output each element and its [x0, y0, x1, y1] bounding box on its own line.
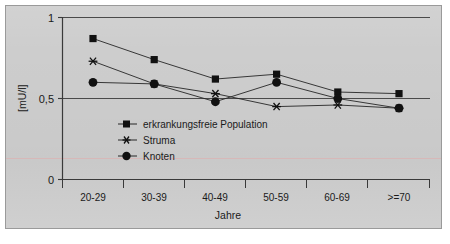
circle-marker-icon — [395, 104, 404, 113]
series-knoten — [89, 78, 404, 113]
y-axis-ticks — [58, 18, 62, 180]
legend-label-2: Knoten — [143, 151, 175, 162]
square-marker-icon — [151, 56, 158, 63]
y-axis-title: [mU/l] — [16, 85, 28, 112]
circle-marker-icon — [211, 97, 220, 106]
gridlines — [62, 18, 430, 99]
y-tick-label-mid: 0,5 — [39, 93, 54, 105]
legend-label-0: erkrankungsfreie Population — [143, 119, 268, 130]
square-marker-icon — [395, 90, 402, 97]
asterisk-marker-icon — [89, 58, 98, 65]
legend-item-2[interactable]: Knoten — [118, 151, 175, 162]
asterisk-marker-icon — [272, 103, 281, 110]
x-category-label-2: 40-49 — [202, 192, 228, 203]
square-marker-icon — [123, 121, 130, 128]
series-layer — [89, 35, 404, 113]
legend-item-1[interactable]: Struma — [118, 135, 176, 146]
legend-label-1: Struma — [143, 135, 176, 146]
x-axis-ticks — [63, 179, 430, 188]
asterisk-marker-icon — [211, 90, 220, 97]
asterisk-marker-icon — [123, 137, 131, 144]
x-axis-title: Jahre — [215, 209, 241, 221]
circle-marker-icon — [122, 152, 130, 160]
circle-marker-icon — [272, 78, 281, 87]
circle-marker-icon — [89, 78, 98, 87]
series-struma — [89, 58, 404, 112]
legend-item-0[interactable]: erkrankungsfreie Population — [118, 119, 268, 130]
x-category-label-0: 20-29 — [80, 192, 106, 203]
circle-marker-icon — [333, 94, 342, 103]
square-marker-icon — [89, 35, 96, 42]
series-line — [93, 82, 399, 108]
x-category-label-5: >=70 — [388, 192, 411, 203]
square-marker-icon — [212, 75, 219, 82]
series-erkrankungsfreie-population — [89, 35, 402, 97]
line-chart: 1 0,5 0 [mU/l] 20-29 30-39 40-49 50-59 6… — [0, 0, 450, 244]
x-category-label-3: 50-59 — [263, 192, 289, 203]
x-category-label-4: 60-69 — [324, 192, 350, 203]
y-tick-label-bottom: 0 — [48, 174, 54, 186]
screenshot-root: 1 0,5 0 [mU/l] 20-29 30-39 40-49 50-59 6… — [0, 0, 450, 244]
square-marker-icon — [273, 71, 280, 78]
x-axis-category-labels: 20-29 30-39 40-49 50-59 60-69 >=70 — [80, 192, 411, 203]
legend: erkrankungsfreie Population Struma Knote… — [118, 119, 268, 162]
series-line — [93, 39, 399, 94]
x-category-label-1: 30-39 — [141, 192, 167, 203]
circle-marker-icon — [150, 80, 159, 89]
y-tick-label-top: 1 — [48, 12, 54, 24]
